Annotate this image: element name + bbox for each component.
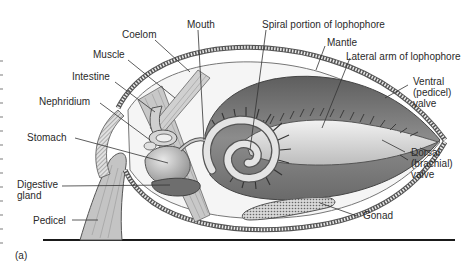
- label-ventral-valve: Ventral (pedicel) valve: [413, 76, 451, 109]
- label-spiral-lophophore: Spiral portion of lophophore: [262, 19, 385, 30]
- brachiopod-anatomy-figure: Mouth Coelom Muscle Intestine Nephridium…: [0, 0, 476, 263]
- label-nephridium: Nephridium: [39, 96, 90, 107]
- label-coelom: Coelom: [122, 29, 156, 40]
- label-dorsal-valve: Dorsal (brachial) valve: [411, 147, 453, 180]
- page-edge-marks: [0, 60, 4, 260]
- label-stomach: Stomach: [27, 132, 66, 143]
- label-intestine: Intestine: [72, 71, 110, 82]
- label-muscle: Muscle: [93, 49, 125, 60]
- brachiopod-illustration: [0, 0, 476, 263]
- label-pedicel: Pedicel: [33, 215, 66, 226]
- panel-label: (a): [15, 250, 27, 261]
- label-mouth: Mouth: [187, 19, 215, 30]
- label-lateral-arm: Lateral arm of lophophore: [346, 51, 461, 62]
- label-mantle: Mantle: [327, 37, 357, 48]
- label-digestive-gland: Digestive gland: [17, 179, 58, 201]
- label-gonad: Gonad: [363, 210, 393, 221]
